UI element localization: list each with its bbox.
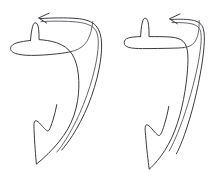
figure-right-head-underside — [124, 37, 183, 49]
figure-left-outline — [31, 23, 79, 164]
figure-right-inner-contour — [184, 21, 200, 48]
figure-left — [11, 13, 102, 164]
line-art-illustration — [0, 0, 215, 188]
figure-right-outline — [141, 18, 188, 169]
drawing-canvas — [0, 0, 215, 188]
figure-left-head-underside — [11, 41, 71, 56]
motion-arrow-right-shaft — [171, 19, 204, 154]
figure-right — [124, 14, 204, 169]
figure-left-inner-contour — [71, 22, 93, 52]
